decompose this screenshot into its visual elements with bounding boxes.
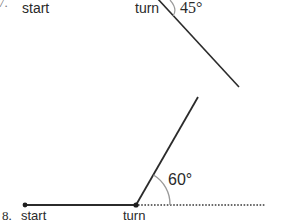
problem-7-number: 7. [0,0,8,9]
problem-8-start-label: start [21,209,46,222]
problem-8-turn-label: turn [123,209,145,222]
problem-8-figure [23,97,266,208]
turn-point-dot [133,202,138,207]
turn-angle-diagram: 7. start turn 45° 8. start turn 60° [0,0,284,222]
diagram-canvas [0,0,284,222]
problem-7-turn-label: turn [135,1,159,15]
problem-7-start-label: start [22,1,49,15]
problem-7-angle-label: 45° [180,0,202,16]
problem-8-number: 8. [2,209,12,222]
start-point-dot [23,203,28,208]
problem-8-angle-label: 60° [168,172,192,188]
